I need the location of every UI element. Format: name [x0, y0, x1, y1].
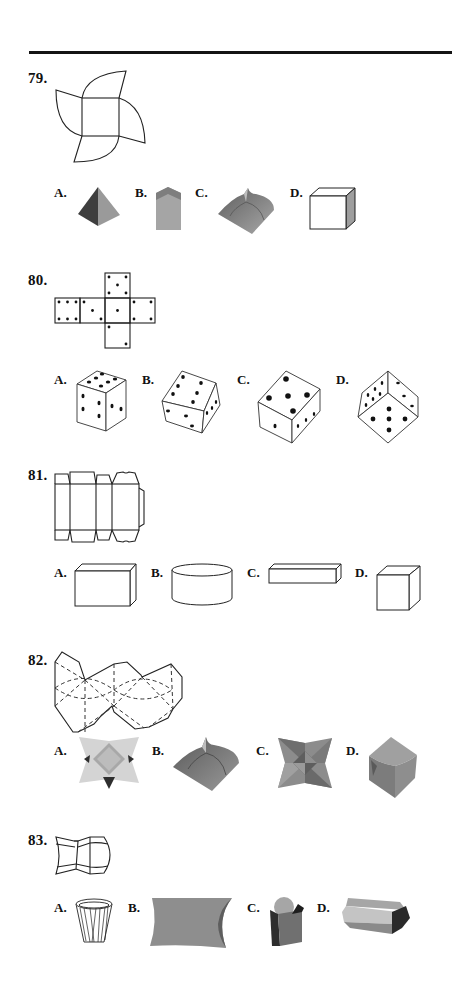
question-number: 82. — [28, 652, 47, 669]
pillow-pack-icon[interactable] — [148, 896, 234, 950]
question-number: 83. — [28, 832, 47, 849]
star-light-icon[interactable] — [77, 735, 141, 790]
option-d-label[interactable]: D. — [317, 900, 330, 916]
pinwheel-net-figure — [50, 68, 150, 166]
pyramid-icon[interactable] — [76, 185, 122, 227]
option-a-label[interactable]: A. — [54, 743, 67, 759]
dice-net-figure — [55, 272, 165, 350]
curved-cube-icon[interactable] — [367, 736, 419, 800]
option-b-label[interactable]: B. — [151, 565, 163, 581]
option-c-label[interactable]: C. — [237, 372, 250, 388]
die-c-icon[interactable] — [256, 369, 322, 445]
clamshell-box-icon[interactable] — [340, 896, 412, 936]
die-a-icon[interactable] — [75, 369, 129, 433]
option-b-label[interactable]: B. — [135, 185, 147, 201]
pillow-box-icon[interactable] — [172, 735, 240, 793]
box-net-figure — [54, 470, 142, 546]
option-d-label[interactable]: D. — [290, 185, 303, 201]
option-a-label[interactable]: A. — [54, 900, 67, 916]
bowtie-net-figure — [54, 836, 114, 876]
option-a-label[interactable]: A. — [54, 565, 67, 581]
question-number: 80. — [28, 272, 47, 289]
option-a-label[interactable]: A. — [54, 372, 67, 388]
question-number: 79. — [28, 70, 47, 87]
option-d-label[interactable]: D. — [346, 743, 359, 759]
option-b-label[interactable]: B. — [152, 743, 164, 759]
star-faceted-icon[interactable] — [277, 737, 333, 789]
pointed-prism-icon[interactable] — [155, 186, 183, 231]
fries-container-icon[interactable] — [268, 896, 308, 948]
long-bar-icon[interactable] — [268, 563, 343, 585]
option-d-label[interactable]: D. — [336, 372, 349, 388]
option-b-label[interactable]: B. — [128, 900, 140, 916]
pillow-box-icon[interactable] — [216, 186, 276, 236]
option-b-label[interactable]: B. — [142, 372, 154, 388]
header-rule — [29, 51, 452, 54]
option-d-label[interactable]: D. — [355, 565, 368, 581]
option-c-label[interactable]: C. — [195, 185, 208, 201]
question-number: 81. — [28, 467, 47, 484]
cylinder-icon[interactable] — [170, 562, 234, 608]
cube-icon[interactable] — [308, 186, 358, 231]
rect-box-icon[interactable] — [74, 563, 138, 608]
option-a-label[interactable]: A. — [54, 185, 67, 201]
option-c-label[interactable]: C. — [256, 743, 269, 759]
option-c-label[interactable]: C. — [247, 900, 260, 916]
star-box-net-figure — [54, 650, 186, 734]
die-b-icon[interactable] — [160, 369, 222, 435]
option-c-label[interactable]: C. — [247, 565, 260, 581]
paper-cup-icon[interactable] — [74, 896, 114, 944]
die-d-icon[interactable] — [356, 369, 422, 445]
cube-icon[interactable] — [376, 564, 422, 612]
